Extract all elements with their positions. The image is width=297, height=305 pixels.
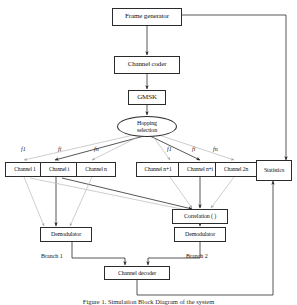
label-branch-2-text: Branch 2 xyxy=(186,253,208,259)
label-freq-right-i: fi xyxy=(192,146,195,152)
node-channel-n-label: Channel n xyxy=(85,167,107,173)
edge-channel-2n-to-correlation xyxy=(211,177,234,208)
node-demodulator-left[interactable]: Demodulator xyxy=(40,227,92,242)
label-branch-1-text: Branch 1 xyxy=(41,253,63,259)
edge-channel-n-plus-1-to-correlation xyxy=(170,177,192,208)
node-channel-n-plus-1[interactable]: Channel n+1 xyxy=(136,162,180,177)
node-channel-decoder-label: Channel decoder xyxy=(118,270,156,276)
node-channel-coder-label: Channel coder xyxy=(128,61,167,68)
node-channel-n-plus-1-label: Channel n+1 xyxy=(144,167,171,173)
node-channel-1-label: Channel 1 xyxy=(14,167,36,173)
label-freq-right-n-text: fn xyxy=(213,146,218,152)
node-channel-n[interactable]: Channel n xyxy=(76,162,116,177)
node-gmsk-label: GMSK xyxy=(137,94,157,101)
edge-hopping-to-channel-1 xyxy=(24,134,138,160)
label-branch-2: Branch 2 xyxy=(186,253,208,259)
node-correlation-label: Correlation ( ) xyxy=(184,213,216,219)
edge-channel-1-to-demod-left xyxy=(24,177,44,226)
node-statistics-label: Statistics xyxy=(264,167,284,173)
edge-channel-i-to-correlation-diagonal xyxy=(62,178,192,209)
node-channel-2n-label: Channel 2n xyxy=(224,167,248,173)
node-demodulator-right[interactable]: Demodulator xyxy=(174,227,226,242)
node-frame-generator-label: Frame generator xyxy=(125,13,169,20)
edge-channel-n-to-demod-left xyxy=(70,177,92,226)
node-demodulator-right-label: Demodulator xyxy=(185,231,215,237)
node-demodulator-left-label: Demodulator xyxy=(51,231,81,237)
node-channel-1[interactable]: Channel 1 xyxy=(5,162,45,177)
figure-canvas: Frame generator Channel coder GMSK Hoppi… xyxy=(0,0,297,305)
node-channel-n-plus-i-label: Channel n+i xyxy=(187,167,213,173)
label-freq-right-n: fn xyxy=(213,146,218,152)
label-freq-left-n: fn xyxy=(94,146,99,152)
node-frame-generator[interactable]: Frame generator xyxy=(112,8,182,26)
edge-framegen-to-statistics xyxy=(180,15,286,160)
edge-demod-left-to-decoder xyxy=(72,242,125,265)
label-freq-right-1: f1 xyxy=(167,146,172,152)
node-channel-i-label: Channel i xyxy=(49,167,69,173)
node-channel-coder[interactable]: Channel coder xyxy=(114,56,180,74)
edge-channel-1-to-correlation-faint xyxy=(30,178,186,210)
node-hopping-selection[interactable]: Hopping selection xyxy=(117,116,177,137)
node-statistics[interactable]: Statistics xyxy=(256,160,292,181)
node-channel-i[interactable]: Channel i xyxy=(40,162,78,177)
figure-caption: Figure 1. Simulation Block Diagram of th… xyxy=(0,298,297,305)
node-correlation[interactable]: Correlation ( ) xyxy=(172,209,228,224)
label-branch-1: Branch 1 xyxy=(41,253,63,259)
node-channel-decoder[interactable]: Channel decoder xyxy=(104,266,170,280)
node-channel-2n[interactable]: Channel 2n xyxy=(215,162,257,177)
node-hopping-selection-label-line2: selection xyxy=(137,127,157,133)
label-freq-left-i: fi xyxy=(58,146,61,152)
label-freq-left-i-text: fi xyxy=(58,146,61,152)
node-gmsk[interactable]: GMSK xyxy=(128,90,166,105)
label-freq-right-1-text: f1 xyxy=(167,146,172,152)
connector-layer xyxy=(0,0,297,305)
figure-caption-text: Figure 1. Simulation Block Diagram of th… xyxy=(83,298,214,305)
label-freq-left-1: f1 xyxy=(21,146,26,152)
label-freq-left-n-text: fn xyxy=(94,146,99,152)
label-freq-right-i-text: fi xyxy=(192,146,195,152)
label-freq-left-1-text: f1 xyxy=(21,146,26,152)
